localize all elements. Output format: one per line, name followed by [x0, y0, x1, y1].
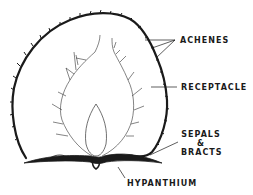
label-sepals-bracts: SEPALS & BRACTS	[181, 130, 221, 157]
label-achenes: ACHENES	[180, 36, 229, 45]
label-sepals-line1: SEPALS	[181, 130, 221, 139]
achenes-marks	[10, 10, 169, 150]
label-hypanthium: HYPANTHIUM	[127, 179, 197, 188]
label-receptacle: RECEPTACLE	[181, 83, 247, 92]
pith-core	[85, 104, 106, 156]
fruit-outline	[13, 13, 168, 158]
label-sepals-line2: &	[181, 139, 221, 148]
strawberry-section-diagram	[0, 0, 253, 195]
vascular-bundles	[52, 35, 144, 156]
label-sepals-line3: BRACTS	[181, 148, 221, 157]
